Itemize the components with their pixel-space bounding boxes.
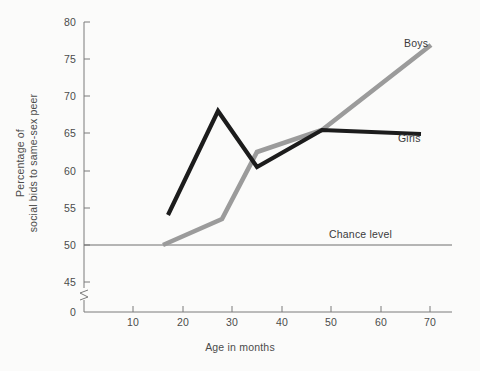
y-axis-title-line-2: social bids to same-sex peer <box>27 88 40 238</box>
y-tick-label-80: 80 <box>50 16 76 28</box>
y-tick-label-0: 0 <box>50 306 76 318</box>
y-tick-label-70: 70 <box>50 90 76 102</box>
y-tick-label-75: 75 <box>50 53 76 65</box>
series-label-boys: Boys <box>404 37 428 49</box>
chance-level-label: Chance level <box>329 228 392 240</box>
series-label-girls: Girls <box>398 132 421 144</box>
y-tick-label-65: 65 <box>50 127 76 139</box>
x-tick-label-50: 50 <box>318 316 344 328</box>
x-axis-title: Age in months <box>0 341 480 353</box>
y-axis-title-line-1: Percentage of <box>14 88 27 238</box>
y-tick-label-60: 60 <box>50 165 76 177</box>
x-tick-label-60: 60 <box>368 316 394 328</box>
x-tick-label-10: 10 <box>120 316 146 328</box>
y-tick-label-55: 55 <box>50 202 76 214</box>
y-tick-label-50: 50 <box>50 239 76 251</box>
x-tick-label-40: 40 <box>269 316 295 328</box>
x-tick-label-20: 20 <box>170 316 196 328</box>
y-tick-label-45: 45 <box>50 276 76 288</box>
x-tick-label-30: 30 <box>219 316 245 328</box>
chart-figure: 80 75 70 65 60 55 50 45 0 10 20 30 40 50… <box>0 0 480 371</box>
y-axis-title: Percentage of social bids to same-sex pe… <box>14 88 40 238</box>
x-tick-label-70: 70 <box>417 316 443 328</box>
